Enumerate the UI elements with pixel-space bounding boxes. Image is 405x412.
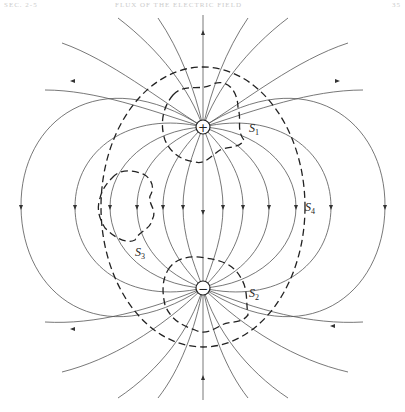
surface-s3 [98,171,154,241]
label-s2: S2 [249,286,259,302]
negative-charge: − [196,281,210,296]
gaussian-surfaces [98,67,305,347]
label-s4: S4 [305,200,315,216]
label-s3: S3 [135,245,145,261]
minus-icon: − [198,282,208,296]
label-s1: S1 [249,121,259,137]
positive-charge: + [196,120,210,135]
plus-icon: + [198,121,208,135]
dipole-field-diagram: + − S1 S2 S3 S4 [0,0,405,412]
